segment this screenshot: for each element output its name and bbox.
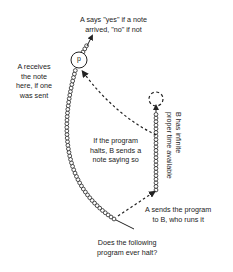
if-halts-label: If the program halts, B sends a note say… [90,136,141,165]
b-infinite-label: B has infinite proper time available [165,112,183,179]
b-infinity-circle [149,92,163,106]
chain-link [73,69,77,73]
b-worldline [154,113,158,192]
chain-link [68,93,72,97]
chain-link [154,113,158,117]
question-label: Does the following program ever halt? [97,238,157,257]
event-p-label: p [71,55,87,62]
a-receives-label: A receives the note here, if one was sen… [16,62,52,100]
a-sends-label: A sends the program to B, who runs it [145,205,211,224]
a-says-label: A says "yes" if a note arrived, "no" if … [80,15,147,34]
program-line [114,219,134,229]
halt-note-arrow [83,72,156,135]
chain-link [67,150,71,154]
a-exit-arrow [87,36,92,46]
